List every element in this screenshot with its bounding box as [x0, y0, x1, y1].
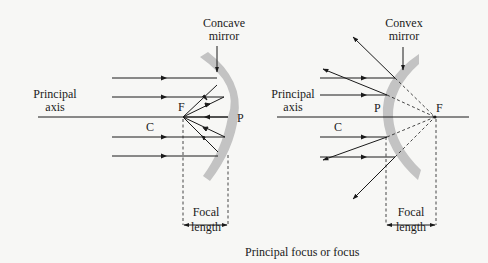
concave-mirror-figure — [38, 46, 239, 225]
convex-focus-point — [434, 116, 437, 119]
convex-axis-label-line2: axis — [268, 101, 318, 114]
convex-mirror-title: Convex mirror — [383, 17, 425, 43]
concave-pole-label: P — [237, 112, 244, 125]
convex-focal-length-label: Focal length — [391, 206, 431, 234]
concave-mirror-title-line2: mirror — [200, 30, 248, 43]
concave-focal-length-line2: length — [186, 221, 226, 234]
concave-focus-label: F — [178, 101, 185, 114]
concave-centre-label: C — [146, 121, 154, 134]
concave-mirror-title: Concave mirror — [200, 17, 248, 43]
convex-mirror-figure — [277, 37, 469, 225]
concave-axis-label: Principal axis — [30, 88, 80, 114]
figure-caption: Principal focus or focus — [245, 246, 359, 259]
convex-focal-length-line1: Focal — [391, 206, 431, 219]
convex-centre-label: C — [334, 121, 342, 134]
convex-pole-label: P — [374, 102, 381, 115]
convex-focal-length-line2: length — [391, 221, 431, 234]
convex-focus-label: F — [436, 102, 443, 115]
convex-axis-label: Principal axis — [268, 88, 318, 114]
concave-focal-length-label: Focal length — [186, 206, 226, 234]
convex-mirror-title-line2: mirror — [383, 30, 425, 43]
concave-axis-label-line2: axis — [30, 101, 80, 114]
concave-focal-length-line1: Focal — [186, 206, 226, 219]
